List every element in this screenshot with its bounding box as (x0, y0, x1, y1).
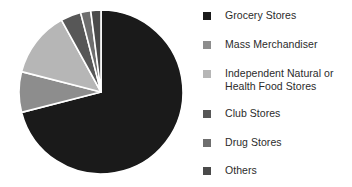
legend-swatch-icon (203, 41, 211, 49)
legend-item-others[interactable]: Others (203, 164, 257, 177)
legend-item-label: Others (225, 164, 257, 177)
legend-swatch-icon (203, 139, 211, 147)
legend-item-mass-merchandiser[interactable]: Mass Merchandiser (203, 38, 317, 51)
chart-legend: Grocery Stores Mass Merchandiser Indepen… (203, 9, 352, 181)
legend-item-label: Drug Stores (225, 136, 282, 149)
legend-item-grocery-stores[interactable]: Grocery Stores (203, 9, 296, 22)
pie-slice-group (19, 10, 183, 174)
legend-item-drug-stores[interactable]: Drug Stores (203, 136, 282, 149)
legend-item-club-stores[interactable]: Club Stores (203, 107, 280, 120)
legend-item-label: Club Stores (225, 107, 280, 120)
pie-chart-figure: Grocery Stores Mass Merchandiser Indepen… (0, 0, 352, 187)
legend-swatch-icon (203, 70, 211, 78)
legend-swatch-icon (203, 167, 211, 175)
legend-item-label: Mass Merchandiser (225, 38, 317, 51)
pie-plot-area (0, 0, 196, 187)
legend-item-label: Grocery Stores (225, 9, 296, 22)
legend-swatch-icon (203, 110, 211, 118)
legend-item-independent-natural-health-food-stores[interactable]: Independent Natural or Health Food Store… (203, 67, 334, 92)
legend-item-label: Independent Natural or Health Food Store… (225, 67, 334, 92)
legend-swatch-icon (203, 12, 211, 20)
pie-svg (0, 0, 196, 187)
